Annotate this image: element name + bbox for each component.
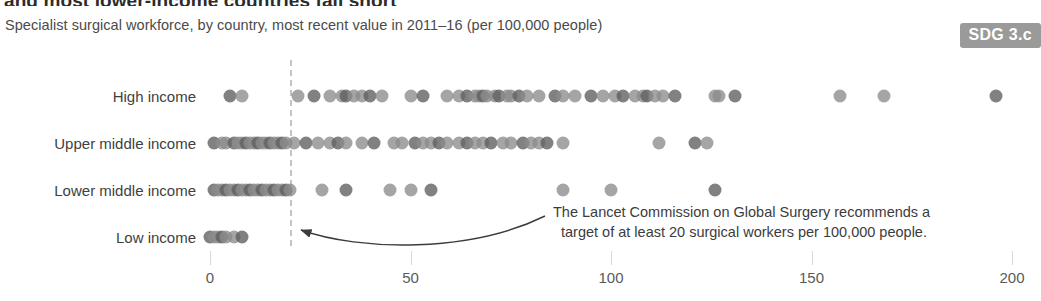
data-point — [556, 184, 569, 197]
chart-subtitle: Specialist surgical workforce, by countr… — [5, 17, 602, 33]
data-point — [384, 184, 397, 197]
data-point — [877, 90, 890, 103]
data-point — [709, 184, 722, 197]
data-point — [605, 184, 618, 197]
category-label-lower-middle-income: Lower middle income — [0, 182, 196, 199]
x-tick-mark — [210, 251, 211, 265]
data-point — [236, 90, 249, 103]
data-point — [729, 90, 742, 103]
data-point — [556, 137, 569, 150]
category-label-low-income: Low income — [0, 229, 196, 246]
chart-title: and most lower-income countries fall sho… — [4, 0, 704, 6]
category-label-upper-middle-income: Upper middle income — [0, 135, 196, 152]
data-point — [540, 137, 553, 150]
data-point — [653, 137, 666, 150]
data-point — [416, 90, 429, 103]
data-point — [833, 90, 846, 103]
x-tick-label: 50 — [402, 269, 419, 286]
data-point — [308, 90, 321, 103]
data-point — [424, 184, 437, 197]
data-point — [568, 90, 581, 103]
data-point — [284, 184, 297, 197]
x-tick-label: 0 — [206, 269, 214, 286]
x-tick-mark — [812, 251, 813, 265]
chart-title-clipped: and most lower-income countries fall sho… — [4, 0, 704, 6]
data-point — [532, 90, 545, 103]
data-point — [404, 184, 417, 197]
annotation-line-2: target of at least 20 surgical workers p… — [553, 222, 930, 242]
data-point — [340, 184, 353, 197]
annotation-text: The Lancet Commission on Global Surgery … — [553, 202, 930, 242]
x-tick-label: 150 — [799, 269, 824, 286]
data-point — [669, 90, 682, 103]
data-point — [236, 231, 249, 244]
sdg-badge: SDG 3.c — [960, 23, 1041, 48]
x-tick-mark — [611, 251, 612, 265]
x-tick-mark — [1012, 251, 1013, 265]
data-point — [316, 184, 329, 197]
data-point — [713, 90, 726, 103]
x-tick-mark — [411, 251, 412, 265]
category-label-high-income: High income — [0, 88, 196, 105]
data-point — [340, 137, 353, 150]
annotation-line-1: The Lancet Commission on Global Surgery … — [553, 204, 930, 220]
data-point — [701, 137, 714, 150]
data-point — [989, 90, 1002, 103]
chart-figure: and most lower-income countries fall sho… — [0, 0, 1041, 301]
x-tick-label: 200 — [999, 269, 1024, 286]
plot-area: High income Upper middle income Lower mi… — [0, 55, 1041, 301]
x-tick-label: 100 — [598, 269, 623, 286]
data-point — [292, 90, 305, 103]
data-point — [376, 90, 389, 103]
data-point — [368, 137, 381, 150]
reference-line-20 — [290, 60, 292, 246]
